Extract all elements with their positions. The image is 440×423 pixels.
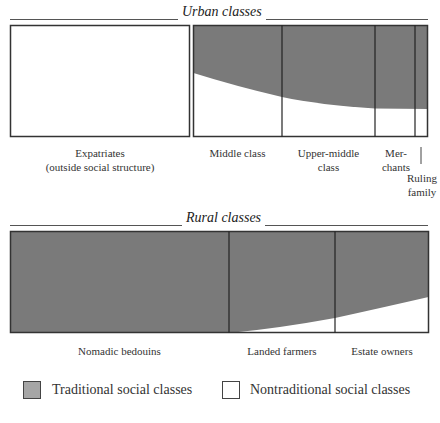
urban-classes-box bbox=[194, 26, 428, 137]
rural-section-title: Rural classes bbox=[182, 210, 265, 226]
label-expatriates: Expatriates (outside social structure) bbox=[10, 146, 190, 174]
label-expatriates-line2: (outside social structure) bbox=[10, 160, 190, 174]
label-upper-middle-class: Upper-middle class bbox=[282, 146, 375, 174]
rural-classes-box bbox=[11, 232, 429, 333]
rural-title-rule-left bbox=[10, 225, 184, 226]
label-landed-farmers: Landed farmers bbox=[229, 344, 335, 358]
rural-title-rule-right bbox=[254, 225, 428, 226]
label-upper-middle-line2: class bbox=[282, 160, 375, 174]
label-ruling-line1: Ruling bbox=[404, 171, 440, 185]
legend-traditional-label: Traditional social classes bbox=[52, 382, 192, 398]
label-middle-class: Middle class bbox=[193, 146, 282, 160]
label-upper-middle-line1: Upper-middle bbox=[282, 146, 375, 160]
urban-expatriates-box bbox=[11, 26, 190, 137]
label-ruling-line2: family bbox=[404, 185, 440, 199]
label-expatriates-line1: Expatriates bbox=[10, 146, 190, 160]
label-merchants-line1: Mer- bbox=[380, 146, 412, 160]
legend-nontraditional-swatch bbox=[222, 381, 240, 399]
label-nomadic-bedouins: Nomadic bedouins bbox=[10, 344, 229, 358]
legend-nontraditional-label: Nontraditional social classes bbox=[250, 382, 410, 398]
label-merchants: Mer- chants bbox=[380, 146, 412, 174]
legend-traditional-swatch bbox=[23, 381, 41, 399]
label-ruling-family: Ruling family bbox=[404, 171, 440, 199]
label-estate-owners: Estate owners bbox=[335, 344, 429, 358]
